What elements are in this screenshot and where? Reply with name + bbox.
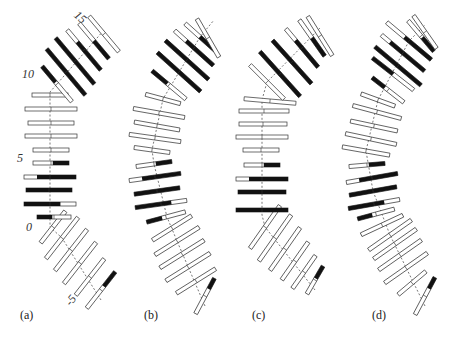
- base-pair-bar: [25, 134, 77, 138]
- base-pair-bar: [243, 148, 279, 152]
- base-pair-bar: [357, 207, 395, 221]
- axis-line-c: [262, 28, 320, 290]
- base-pair-bar: [244, 163, 280, 167]
- panel-label-d: (d): [372, 308, 386, 323]
- base-pair-bar: [78, 22, 111, 60]
- base-pair-bar: [156, 51, 202, 93]
- base-pair-bar: [236, 177, 288, 181]
- base-pair-bar: [136, 160, 172, 169]
- base-pair-bar: [349, 185, 397, 197]
- base-pair-bar: [45, 48, 87, 97]
- panel-c-bars: [236, 15, 334, 294]
- base-pair-bar: [154, 226, 200, 257]
- base-pair-bar: [239, 122, 287, 126]
- base-pair-bar: [129, 171, 181, 182]
- base-pair-bar: [134, 186, 180, 196]
- base-pair-bar: [54, 37, 96, 86]
- panel-label-c: (c): [252, 308, 265, 323]
- base-pair-bar: [66, 29, 102, 71]
- figure-canvas: [0, 0, 454, 340]
- index-label: 5: [17, 151, 23, 166]
- panel-b-bars: [129, 18, 221, 315]
- base-pair-bar: [24, 175, 76, 179]
- base-pair-bar: [413, 277, 436, 316]
- panel-label-a: (a): [20, 308, 33, 323]
- base-pair-bar: [239, 109, 289, 113]
- base-pair-bar: [133, 107, 185, 120]
- index-label: 0: [26, 220, 32, 235]
- panel-label-b: (b): [144, 308, 158, 323]
- base-pair-bar: [345, 132, 397, 147]
- base-pair-bars: [24, 14, 438, 315]
- base-pair-bar: [134, 120, 180, 132]
- base-pair-bar: [33, 161, 69, 165]
- base-pair-bar: [159, 239, 205, 270]
- base-pair-bar: [134, 146, 170, 155]
- panel-a-bars: [24, 15, 120, 309]
- base-pair-bar: [25, 107, 77, 111]
- base-pair-bar: [350, 119, 398, 133]
- base-pair-bar: [37, 215, 71, 219]
- base-pair-bar: [145, 92, 181, 105]
- base-pair-bar: [346, 172, 398, 185]
- base-pair-bar: [236, 208, 288, 212]
- base-pair-bar: [271, 39, 313, 85]
- base-pair-bar: [238, 190, 286, 194]
- panel-d-bars: [342, 14, 438, 315]
- base-pair-bar: [164, 39, 210, 81]
- base-pair-bar: [342, 145, 390, 157]
- base-pair-bar: [33, 148, 69, 152]
- index-label: 10: [22, 67, 34, 82]
- base-pair-bar: [28, 121, 74, 125]
- base-pair-bar: [24, 202, 76, 206]
- base-pair-bar: [378, 238, 423, 271]
- base-pair-bar: [135, 198, 187, 209]
- base-pair-bar: [244, 97, 296, 106]
- base-pair-bar: [88, 15, 121, 53]
- base-pair-bar: [26, 188, 72, 192]
- base-pair-bar: [384, 251, 429, 284]
- base-pair-bar: [268, 227, 301, 272]
- base-pair-bar: [236, 135, 288, 139]
- base-pair-bar: [129, 132, 181, 143]
- base-pair-bar: [349, 161, 385, 168]
